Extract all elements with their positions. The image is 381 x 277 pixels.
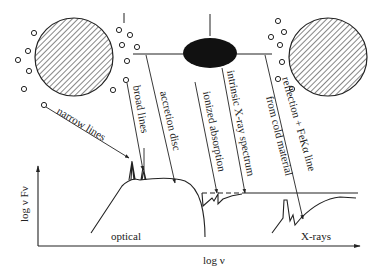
reflection-cloud <box>275 76 280 81</box>
optical-bump <box>91 178 205 237</box>
ionized-absorption-edges <box>202 193 242 206</box>
label-broad-lines: broad lines <box>131 84 151 134</box>
region-optical: optical <box>111 230 141 242</box>
label-narrow-lines: narrow lines <box>55 104 108 142</box>
left-cloud-sphere <box>35 18 113 96</box>
x-axis-label: log ν <box>203 254 225 266</box>
central-engine <box>133 14 272 68</box>
label-intrinsic-xray: intrinsic X-ray spectrum <box>225 69 257 177</box>
narrow-line-cloud <box>41 102 46 107</box>
narrow-line-peak <box>129 161 135 180</box>
agn-diagram: narrow lines broad lines accretion disc … <box>0 0 381 277</box>
label-accretion-disc: accretion disc <box>158 90 183 152</box>
y-axis-label: log ν Fν <box>18 186 30 222</box>
broad-line-cloud <box>123 77 128 82</box>
broad-line-peak <box>141 167 146 180</box>
region-xrays: X-rays <box>301 230 331 242</box>
spectrum-curves <box>91 161 358 237</box>
right-cloud-sphere <box>289 18 367 96</box>
reflection-hump <box>272 197 356 233</box>
